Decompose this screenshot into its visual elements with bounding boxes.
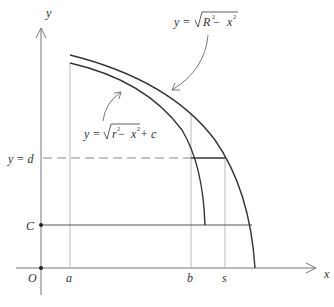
c-point (39, 223, 43, 227)
outer-equation: y = R 2 − x 2 (173, 12, 238, 29)
svg-text:2: 2 (233, 14, 236, 20)
origin-point (39, 266, 43, 270)
tick-label-b: b (187, 271, 193, 285)
outer-curve (70, 55, 255, 268)
inner-curve (70, 63, 205, 225)
outer-callout-arrow (172, 35, 208, 90)
svg-text:+ c: + c (140, 127, 157, 141)
svg-text:R: R (202, 15, 211, 29)
tick-label-s: s (222, 271, 227, 285)
inner-equation: y = r 2 − x 2 + c (83, 124, 157, 141)
origin-label: O (28, 271, 37, 285)
svg-text:y =: y = (83, 127, 100, 141)
diagram-canvas: y x O a b s y = d C y = R 2 − x 2 y = r … (0, 0, 334, 307)
svg-text:−: − (213, 15, 220, 29)
svg-text:y =: y = (173, 15, 190, 29)
svg-text:x: x (130, 127, 137, 141)
inner-callout-arrow (103, 92, 121, 121)
svg-text:−: − (118, 127, 125, 141)
x-axis-label: x (323, 267, 330, 281)
tick-label-a: a (66, 271, 72, 285)
tick-label-y-d: y = d (7, 152, 34, 166)
tick-label-c: C (26, 219, 35, 233)
svg-text:x: x (226, 15, 233, 29)
vertical-guides (70, 63, 225, 268)
y-axis-label: y (45, 6, 52, 20)
axes (16, 28, 316, 295)
